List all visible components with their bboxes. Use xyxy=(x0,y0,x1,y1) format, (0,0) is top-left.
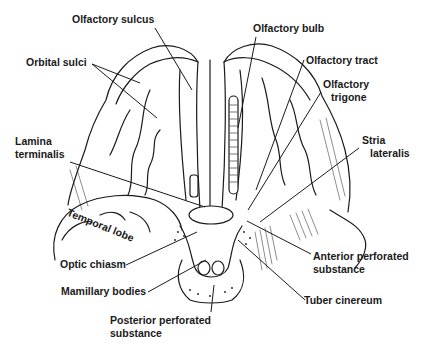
leader-posterior-perforated xyxy=(211,285,214,312)
leader-olfactory-trigone xyxy=(248,92,321,210)
leader-mamillary-bodies xyxy=(148,260,206,292)
label-olfactory-trigone: Olfactory trigone xyxy=(323,78,369,104)
label-stria-lateralis: Stria lateralis xyxy=(362,134,410,160)
leader-olfactory-sulcus xyxy=(155,28,192,90)
right-frontal-lobe xyxy=(222,44,350,212)
label-lamina-terminalis: Lamina terminalis xyxy=(15,135,65,161)
leader-optic-chiasm xyxy=(126,232,197,265)
leader-stria-lateralis xyxy=(260,148,359,222)
label-anterior-perforated-substance: Anterior perforated substance xyxy=(313,250,409,276)
leader-olfactory-bulb xyxy=(238,37,256,128)
label-mamillary-bodies: Mamillary bodies xyxy=(61,285,146,298)
label-olfactory-sulcus: Olfactory sulcus xyxy=(72,13,154,26)
label-orbital-sulci: Orbital sulci xyxy=(26,56,87,69)
leader-orbital-sulci-b xyxy=(92,64,157,118)
label-tuber-cinereum: Tuber cinereum xyxy=(304,294,382,307)
leader-orbital-sulci-a xyxy=(92,64,140,83)
label-olfactory-tract: Olfactory tract xyxy=(306,54,378,67)
label-posterior-perforated-substance: Posterior perforated substance xyxy=(110,314,211,340)
olfactory-bulb-shape xyxy=(229,96,238,194)
label-optic-chiasm: Optic chiasm xyxy=(60,258,126,271)
leader-tuber-cinereum xyxy=(238,240,305,300)
optic-chiasm-shape xyxy=(189,206,233,224)
label-olfactory-bulb: Olfactory bulb xyxy=(253,22,324,35)
